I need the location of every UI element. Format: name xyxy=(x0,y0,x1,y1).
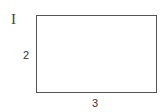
rectangle xyxy=(36,15,157,93)
height-label: 2 xyxy=(23,50,29,61)
width-label: 3 xyxy=(92,98,98,109)
rectangle-diagram: I 2 3 xyxy=(0,0,164,112)
figure-label: I xyxy=(11,12,16,27)
